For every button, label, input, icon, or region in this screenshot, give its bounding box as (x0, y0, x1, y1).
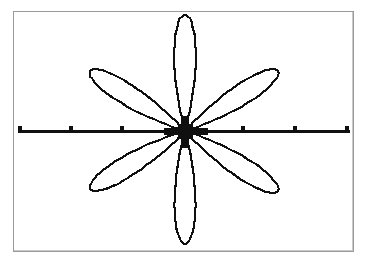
rose-curve-group (90, 15, 279, 244)
rose-petal-upper-left (90, 69, 185, 131)
origin-ink-blob (181, 116, 189, 148)
x-axis-tick (241, 126, 245, 130)
polar-rose-plot-area (14, 12, 353, 251)
x-axis-tick (345, 126, 349, 130)
rose-petal-upper-right (185, 69, 279, 131)
calculator-screen-frame (13, 11, 354, 252)
screenshot-root (0, 0, 366, 269)
rose-petal-lower-left (90, 131, 185, 191)
x-axis-tick (18, 126, 22, 130)
polar-rose-graph (14, 12, 353, 251)
x-axis-tick (120, 126, 124, 130)
rose-petal-up (174, 15, 196, 131)
x-axis-tick (69, 126, 73, 130)
x-axis-tick (293, 126, 297, 130)
rose-petal-lower-right (185, 131, 279, 193)
